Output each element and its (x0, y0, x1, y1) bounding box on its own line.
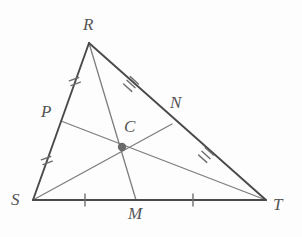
tick-marks-group (41, 77, 213, 206)
geometry-diagram: R S T P N M C (0, 0, 302, 237)
medians-group (33, 43, 266, 200)
triangle-sides-group (33, 43, 266, 200)
vertex-label-T: T (273, 196, 282, 213)
midpoint-label-M: M (128, 205, 142, 222)
median-PT (61, 121, 266, 200)
vertex-label-R: R (83, 16, 93, 33)
tick-NT (199, 148, 214, 163)
centroid-label-C: C (124, 118, 135, 135)
midpoint-label-N: N (170, 94, 181, 111)
centroid-point (118, 143, 126, 151)
midpoint-label-P: P (41, 103, 51, 120)
side-RS (33, 43, 89, 200)
vertex-label-S: S (11, 191, 20, 208)
median-SN (33, 124, 172, 200)
side-RT (89, 43, 266, 200)
